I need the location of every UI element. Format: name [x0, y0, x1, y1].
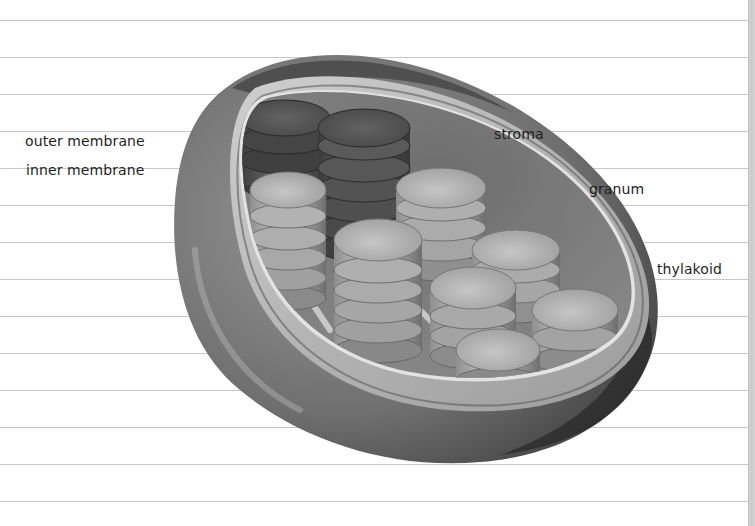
- label-inner-membrane: inner membrane: [26, 162, 144, 178]
- label-granum: granum: [589, 181, 644, 197]
- label-thylakoid: thylakoid: [657, 261, 722, 277]
- chloroplast-diagram: [0, 0, 755, 526]
- label-stroma: stroma: [494, 126, 544, 142]
- label-outer-membrane: outer membrane: [25, 133, 145, 149]
- granum-front-center: [334, 219, 422, 363]
